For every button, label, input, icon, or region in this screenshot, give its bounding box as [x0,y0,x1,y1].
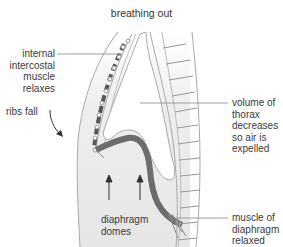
label-ribs-fall: ribs fall [6,106,38,118]
label-volume: volume of thorax decreases so air is exp… [232,97,278,155]
label-muscle-relaxed: muscle of diaphragm relaxed [232,212,279,247]
label-intercostal: internal intercostal muscle relaxes [9,48,55,94]
ribs-fall-arrow [50,110,60,134]
label-diaphragm-domes: diaphragm domes [101,214,148,237]
